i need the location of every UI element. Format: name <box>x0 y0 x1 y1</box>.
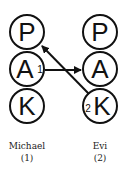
michael-number: (1) <box>2 153 52 164</box>
marker-2: 2 <box>85 103 91 114</box>
marker-1: 1 <box>37 64 43 75</box>
evi-number: (2) <box>75 153 125 164</box>
michael-k-letter: K <box>18 91 36 121</box>
evi-p-letter: P <box>91 17 108 47</box>
michael-name: Michael <box>2 141 52 152</box>
evi-name: Evi <box>75 141 125 152</box>
evi-k-letter: K <box>93 91 111 121</box>
michael-a-letter: A <box>16 54 34 84</box>
evi-a-letter: A <box>91 54 109 84</box>
michael-p-letter: P <box>18 17 35 47</box>
